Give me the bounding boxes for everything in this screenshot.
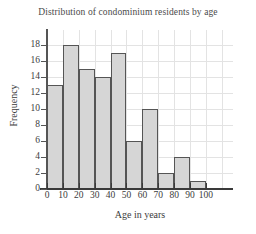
y-tick-mark [41, 45, 47, 46]
y-tick-label-text: 4 [14, 152, 40, 162]
gridline-vertical [206, 30, 207, 189]
histogram-figure: Distribution of condominium residents by… [0, 0, 256, 234]
y-tick-mark [41, 61, 47, 62]
y-tick-label-text: 18 [14, 40, 40, 50]
y-tick-mark [41, 173, 47, 174]
x-tick-mark [111, 183, 112, 189]
plot-area [47, 30, 233, 189]
x-tick-mark [206, 183, 207, 189]
histogram-bar [63, 45, 79, 189]
histogram-bar [142, 109, 158, 189]
histogram-bar [158, 173, 174, 189]
x-tick-mark [63, 183, 64, 189]
y-tick-label: 18 [10, 40, 40, 50]
y-tick-label-text: 2 [14, 168, 40, 178]
y-tick-mark [41, 77, 47, 78]
y-tick-label: 4 [10, 152, 40, 162]
y-tick-mark [41, 93, 47, 94]
x-tick-mark [174, 183, 175, 189]
histogram-bar [95, 77, 111, 189]
y-axis-title: Frequency [8, 66, 19, 146]
x-tick-mark [126, 183, 127, 189]
histogram-bar [111, 53, 127, 189]
y-tick-mark [41, 157, 47, 158]
x-axis-title: Age in years [47, 209, 233, 220]
x-tick-mark [190, 183, 191, 189]
gridline-vertical [222, 30, 223, 189]
x-tick-mark [142, 183, 143, 189]
y-tick-mark [41, 141, 47, 142]
x-tick-mark [95, 183, 96, 189]
gridline-vertical [158, 30, 159, 189]
y-tick-label-text: 16 [14, 56, 40, 66]
x-tick-mark [158, 183, 159, 189]
chart-title: Distribution of condominium residents by… [0, 7, 256, 17]
x-tick-mark [79, 183, 80, 189]
histogram-bar [79, 69, 95, 189]
y-tick-mark [41, 109, 47, 110]
y-tick-label: 2 [10, 168, 40, 178]
x-tick-mark [47, 183, 48, 189]
histogram-bar [47, 85, 63, 189]
y-tick-mark [41, 125, 47, 126]
gridline-vertical [190, 30, 191, 189]
histogram-bar [126, 141, 142, 189]
x-tick-label: 100 [194, 191, 218, 201]
histogram-bar [174, 157, 190, 189]
